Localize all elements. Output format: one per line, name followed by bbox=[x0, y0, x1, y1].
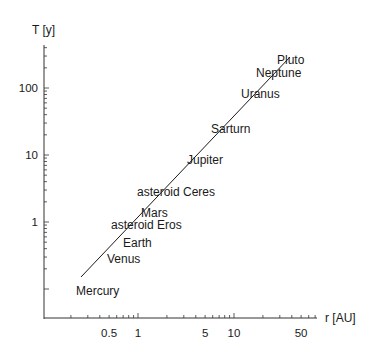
planet-labels: PlutoNeptuneUranusSarturnJupiterasteroid… bbox=[76, 53, 305, 298]
y-tick-label: 10 bbox=[25, 149, 38, 161]
planet-label: asteroid Ceres bbox=[137, 185, 215, 199]
x-tick-label: 50 bbox=[295, 327, 308, 339]
planet-label: asteroid Eros bbox=[111, 218, 182, 232]
x-tick-label: 5 bbox=[202, 327, 208, 339]
axes: 110100 0.5151050 T [y] r [AU] bbox=[19, 23, 356, 339]
planet-label: Pluto bbox=[277, 53, 305, 67]
kepler-third-law-chart: 110100 0.5151050 T [y] r [AU] PlutoNeptu… bbox=[0, 0, 385, 359]
planet-label: Mercury bbox=[76, 284, 119, 298]
y-tick-label: 1 bbox=[32, 216, 38, 228]
y-tick-label: 100 bbox=[19, 82, 38, 94]
x-ticks: 0.5151050 bbox=[71, 313, 315, 339]
planet-label: Neptune bbox=[256, 66, 302, 80]
y-axis-label: T [y] bbox=[32, 23, 55, 37]
x-axis-label: r [AU] bbox=[325, 311, 356, 325]
planet-label: Jupiter bbox=[187, 153, 223, 167]
x-tick-label: 1 bbox=[135, 327, 141, 339]
planet-label: Venus bbox=[107, 252, 140, 266]
x-tick-label: 0.5 bbox=[101, 327, 117, 339]
planet-label: Earth bbox=[123, 236, 152, 250]
planet-label: Uranus bbox=[241, 87, 280, 101]
planet-label: Sarturn bbox=[211, 122, 250, 136]
x-tick-label: 10 bbox=[228, 327, 241, 339]
